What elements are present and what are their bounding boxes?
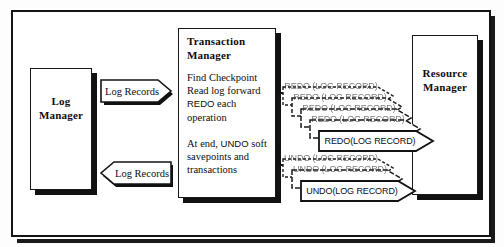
undo-keyword: UNDO xyxy=(221,138,249,149)
log-manager-label: Log Manager xyxy=(30,94,92,122)
transaction-manager-box[interactable]: Transaction Manager Find Checkpoint Read… xyxy=(178,28,276,198)
transaction-manager-undo-steps: At end, UNDO soft savepoints and transac… xyxy=(187,137,272,177)
redo-step-find-checkpoint: Find Checkpoint xyxy=(187,71,272,84)
transaction-manager-title-line1: Transaction xyxy=(187,35,272,49)
transaction-manager-content: Transaction Manager Find Checkpoint Read… xyxy=(187,35,272,176)
undo-step-at-end: At end, UNDO soft xyxy=(187,137,272,150)
redo-step-operation: operation xyxy=(187,111,272,124)
undo-step-prefix: At end, xyxy=(187,138,221,149)
resource-manager-label-line1: Resource xyxy=(412,66,478,80)
log-records-out-arrow[interactable]: Log Records xyxy=(100,79,174,103)
resource-manager-box[interactable]: Resource Manager xyxy=(412,35,478,195)
resource-manager-border xyxy=(412,35,478,195)
log-records-out-label: Log Records xyxy=(102,79,162,103)
log-manager-label-line1: Log xyxy=(30,94,92,108)
log-manager-border xyxy=(30,68,92,190)
log-manager-box[interactable]: Log Manager xyxy=(30,68,92,190)
transaction-manager-redo-steps: Find Checkpoint Read log forward REDO ea… xyxy=(187,71,272,124)
transaction-manager-title-line2: Manager xyxy=(187,49,272,63)
redo-connector-spine xyxy=(278,92,280,144)
diagram-canvas: Log Manager Transaction Manager Find Che… xyxy=(0,0,504,247)
redo-step-read-log-forward: Read log forward xyxy=(187,84,272,97)
redo-step-redo-each: REDO each xyxy=(187,97,272,110)
transaction-manager-title: Transaction Manager xyxy=(187,35,272,62)
frame-shadow-right xyxy=(491,16,495,243)
redo-keyword: REDO xyxy=(187,98,214,109)
log-records-in-arrow[interactable]: Log Records xyxy=(100,161,174,185)
undo-arrow-front-label: UNDO(LOG RECORD) xyxy=(306,180,398,202)
undo-step-savepoints: savepoints and xyxy=(187,150,272,163)
undo-step-transactions: transactions xyxy=(187,163,272,176)
redo-step-rest: each xyxy=(214,98,236,109)
undo-connector-spine xyxy=(278,164,280,194)
log-records-in-label: Log Records xyxy=(112,161,172,185)
redo-arrow-front-label: REDO(LOG RECORD) xyxy=(324,130,416,152)
undo-step-suffix: soft xyxy=(249,138,267,149)
resource-manager-label: Resource Manager xyxy=(412,66,478,94)
frame-shadow-bottom xyxy=(17,239,495,243)
log-manager-label-line2: Manager xyxy=(30,108,92,122)
resource-manager-label-line2: Manager xyxy=(412,80,478,94)
